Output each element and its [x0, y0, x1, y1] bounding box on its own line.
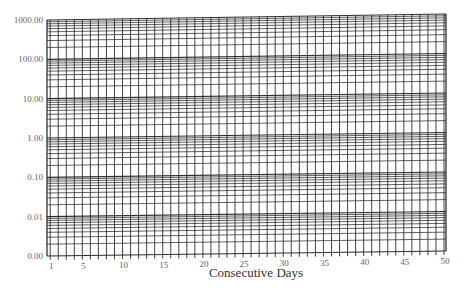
y-tick-label: 100.00: [18, 54, 43, 64]
semi-log-chart: 0.000.010.101.0010.00100.001000.00 15101…: [0, 0, 467, 295]
x-tick-label: 35: [320, 258, 330, 268]
y-tick-label: 1.00: [27, 133, 43, 143]
x-tick-label: 50: [441, 256, 451, 266]
x-tick-label: 45: [400, 257, 410, 267]
y-tick-label: 1000.00: [14, 15, 44, 25]
x-axis-label: Consecutive Days: [209, 265, 303, 280]
plot-area: [47, 14, 446, 260]
x-tick-label: 20: [199, 259, 209, 269]
x-tick-label: 10: [119, 260, 129, 270]
y-tick-label: 10.00: [23, 94, 44, 104]
x-tick-label: 1: [49, 261, 54, 271]
x-tick-label: 15: [159, 260, 169, 270]
y-axis-ticks: 0.000.010.101.0010.00100.001000.00: [14, 15, 44, 261]
y-tick-label: 0.00: [27, 251, 43, 261]
x-tick-label: 5: [81, 261, 86, 271]
y-tick-label: 0.01: [27, 212, 43, 222]
chart-canvas: 0.000.010.101.0010.00100.001000.00 15101…: [0, 0, 467, 295]
y-tick-label: 0.10: [27, 172, 43, 182]
x-tick-label: 40: [360, 257, 370, 267]
